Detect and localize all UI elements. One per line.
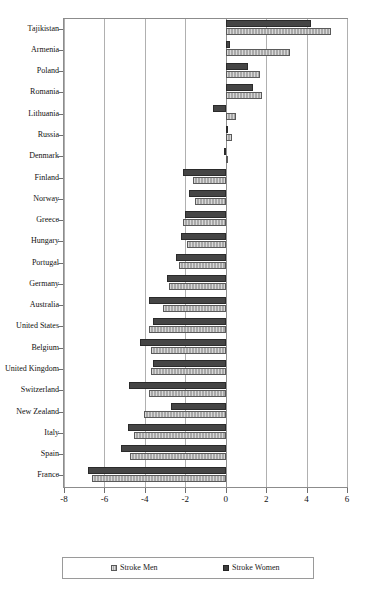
x-axis-label: -2 — [170, 494, 200, 505]
bar-stroke-women — [224, 148, 226, 155]
bar-stroke-men — [163, 305, 226, 312]
legend-swatch-stroke-men — [111, 565, 117, 571]
category-label: Armenia — [0, 45, 59, 54]
x-axis-tick — [64, 488, 65, 493]
x-axis-tick — [185, 488, 186, 493]
bar-row — [64, 274, 347, 295]
bar-stroke-men — [151, 347, 226, 354]
x-axis-tick — [266, 488, 267, 493]
category-tick — [58, 220, 63, 221]
bar-row — [64, 381, 347, 402]
bar-stroke-men — [226, 92, 262, 99]
bar-stroke-men — [144, 411, 226, 418]
legend-label-stroke-men: Stroke Men — [120, 563, 158, 573]
category-tick — [58, 475, 63, 476]
category-label: Germany — [0, 279, 59, 288]
category-label: Tajikistan — [0, 24, 59, 33]
category-tick — [58, 241, 63, 242]
category-label: France — [0, 470, 59, 479]
category-label: United Kingdom — [0, 364, 59, 373]
category-label: Italy — [0, 428, 59, 437]
x-axis-tick — [307, 488, 308, 493]
bar-stroke-men — [130, 453, 226, 460]
bar-stroke-men — [169, 283, 226, 290]
bar-stroke-men — [149, 390, 226, 397]
category-tick — [58, 135, 63, 136]
category-label: Russia — [0, 130, 59, 139]
bar-rows — [64, 19, 347, 487]
category-tick — [58, 326, 63, 327]
bar-stroke-women — [189, 190, 225, 197]
category-tick — [58, 284, 63, 285]
stroke-mortality-bar-chart: TajikistanArmeniaPolandRomaniaLithuaniaR… — [0, 0, 377, 590]
category-label: United States — [0, 321, 59, 330]
category-tick — [58, 369, 63, 370]
x-axis-tick — [145, 488, 146, 493]
bar-stroke-women — [88, 467, 225, 474]
x-axis-label: -4 — [130, 494, 160, 505]
bar-stroke-men — [226, 134, 232, 141]
bar-stroke-men — [195, 198, 225, 205]
category-tick — [58, 305, 63, 306]
bar-row — [64, 189, 347, 210]
category-label: Finland — [0, 173, 59, 182]
bar-stroke-men — [149, 326, 226, 333]
bar-stroke-men — [92, 475, 225, 482]
bar-stroke-men — [134, 432, 226, 439]
category-tick — [58, 263, 63, 264]
bar-stroke-women — [226, 20, 311, 27]
bar-stroke-women — [129, 382, 226, 389]
legend-entry-stroke-men: Stroke Men — [111, 563, 158, 573]
bar-row — [64, 168, 347, 189]
bar-row — [64, 83, 347, 104]
category-label: Portugal — [0, 258, 59, 267]
bar-stroke-women — [140, 339, 226, 346]
bar-stroke-women — [226, 63, 248, 70]
bar-row — [64, 402, 347, 423]
bar-row — [64, 338, 347, 359]
plot-area — [63, 18, 348, 488]
bar-stroke-men — [151, 368, 226, 375]
category-label: Spain — [0, 449, 59, 458]
bar-stroke-women — [153, 360, 226, 367]
bar-stroke-men — [226, 156, 228, 163]
bar-row — [64, 423, 347, 444]
category-label: Australia — [0, 300, 59, 309]
bar-row — [64, 317, 347, 338]
bar-stroke-women — [226, 41, 230, 48]
bar-row — [64, 210, 347, 231]
bar-row — [64, 232, 347, 253]
legend-swatch-stroke-women — [223, 565, 229, 571]
category-tick — [58, 178, 63, 179]
category-tick — [58, 156, 63, 157]
bar-stroke-men — [183, 219, 225, 226]
category-label: Norway — [0, 194, 59, 203]
bar-stroke-women — [183, 169, 225, 176]
category-tick — [58, 412, 63, 413]
bar-row — [64, 40, 347, 61]
x-axis-label: -8 — [49, 494, 79, 505]
bar-stroke-women — [226, 126, 228, 133]
bar-stroke-men — [179, 262, 225, 269]
bar-stroke-women — [213, 105, 226, 112]
category-tick — [58, 50, 63, 51]
bar-stroke-men — [226, 71, 260, 78]
bar-stroke-women — [185, 211, 225, 218]
bar-stroke-women — [149, 297, 226, 304]
category-tick — [58, 71, 63, 72]
bar-stroke-women — [121, 445, 226, 452]
category-tick — [58, 29, 63, 30]
bar-row — [64, 253, 347, 274]
bar-stroke-men — [226, 28, 331, 35]
bar-stroke-women — [153, 318, 226, 325]
x-axis-tick — [347, 488, 348, 493]
category-label: Lithuania — [0, 109, 59, 118]
gridline-6 — [347, 19, 348, 487]
category-tick — [58, 92, 63, 93]
x-axis-label: 6 — [332, 494, 362, 505]
category-tick — [58, 199, 63, 200]
category-label: New Zealand — [0, 407, 59, 416]
x-axis-tick — [226, 488, 227, 493]
bar-stroke-women — [167, 275, 226, 282]
category-tick — [58, 114, 63, 115]
